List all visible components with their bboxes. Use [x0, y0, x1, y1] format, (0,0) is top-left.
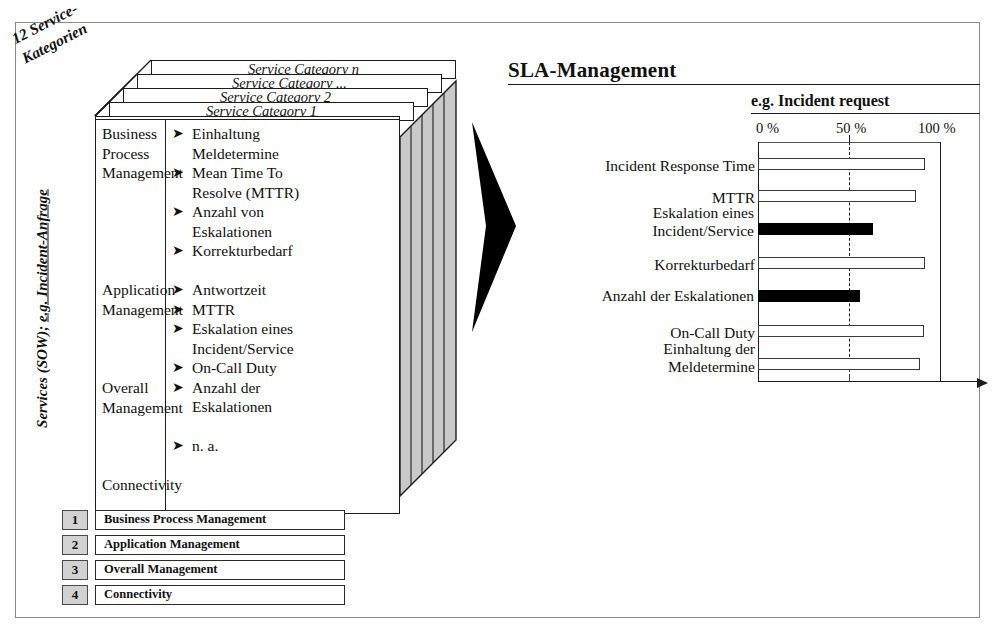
vertical-caption-underlined: e.g. Incident-Anfrage [34, 189, 50, 322]
service-level-item: ➤ Mean Time To Resolve (MTTR) [172, 163, 395, 202]
axis-100-line [940, 142, 941, 382]
bullet-arrow-icon: ➤ [172, 280, 184, 300]
legend-number: 1 [62, 510, 88, 530]
category-label-overall: Overall Management [102, 378, 164, 417]
legend-number: 4 [62, 585, 88, 605]
tick-50-top [849, 135, 850, 144]
bullet-arrow-icon: ➤ [172, 319, 184, 339]
category-label-application: Application Management [102, 280, 164, 319]
bullet-arrow-icon: ➤ [172, 202, 184, 222]
bullet-arrow-icon: ➤ [172, 241, 184, 261]
bar-label: Einhaltung der Meldetermine [663, 340, 755, 375]
category-label-connectivity: Connectivity [102, 475, 164, 495]
xtick-label-0: 0 % [756, 120, 779, 137]
bar-label: On-Call Duty [670, 324, 755, 342]
bar-label: Korrekturbedarf [654, 256, 755, 274]
bullet-arrow-icon: ➤ [172, 124, 184, 144]
service-level-item: ➤ Anzahl der Eskalationen [172, 378, 395, 417]
bar-incident-response-time: Incident Response Time [758, 158, 925, 170]
sla-title-rule [508, 84, 980, 85]
bar-mttr: MTTR [758, 190, 916, 202]
service-level-item: ➤ Antwortzeit [172, 280, 395, 300]
service-level-list: ➤ Einhaltung Meldetermine ➤ Mean Time To… [172, 124, 395, 456]
xtick-label-100: 100 % [918, 120, 955, 137]
list-spacer [172, 417, 395, 437]
bar-eskalation-eines-incident-service: Eskalation eines Incident/Service [758, 223, 873, 235]
legend-label: Business Process Management [95, 510, 345, 530]
flow-arrow-icon [466, 118, 526, 338]
vertical-axis-caption: Services (SOW); e.g. Incident-Anfrage [34, 159, 51, 459]
service-level-item: ➤ Eskalation eines Incident/Service [172, 319, 395, 358]
bullet-arrow-icon: ➤ [172, 300, 184, 320]
bar-anzahl-der-eskalationen: Anzahl der Eskalationen [758, 290, 860, 302]
bar-label: Eskalation eines Incident/Service [652, 204, 754, 239]
category-label-business-process: Business Process Management [102, 124, 164, 183]
bar-on-call-duty: On-Call Duty [758, 325, 924, 337]
bar-korrekturbedarf: Korrekturbedarf [758, 257, 925, 269]
bullet-arrow-icon: ➤ [172, 436, 184, 456]
bar-einhaltung-der-meldetermine: Einhaltung der Meldetermine [758, 358, 920, 370]
service-levels-panel: Business Process Management Application … [95, 119, 400, 514]
sla-management-title: SLA-Management [508, 58, 676, 83]
plot-area: Incident Response Time MTTR Eskalation e… [758, 142, 940, 382]
bar-label: Incident Response Time [605, 157, 755, 175]
service-level-item: ➤ Korrekturbedarf [172, 241, 395, 261]
chart-subtitle: e.g. Incident request [751, 92, 889, 110]
x-axis-arrow-icon [977, 378, 988, 388]
x-axis [758, 381, 978, 382]
service-cube: Service Category n Service Category ... … [55, 40, 475, 520]
chart-subtitle-rule [751, 113, 980, 114]
service-level-item: ➤ Einhaltung Meldetermine [172, 124, 395, 163]
legend-number: 2 [62, 535, 88, 555]
xtick-label-50: 50 % [836, 120, 866, 137]
legend-label: Application Management [95, 535, 345, 555]
bullet-arrow-icon: ➤ [172, 163, 184, 183]
service-level-item: ➤ n. a. [172, 436, 395, 456]
legend-label: Connectivity [95, 585, 345, 605]
service-level-item: ➤ MTTR [172, 300, 395, 320]
vertical-caption-plain: Services (SOW); [34, 322, 50, 428]
service-level-item: ➤ On-Call Duty [172, 358, 395, 378]
bullet-arrow-icon: ➤ [172, 378, 184, 398]
service-level-item: ➤ Anzahl von Eskalationen [172, 202, 395, 241]
bar-label: Anzahl der Eskalationen [602, 287, 754, 305]
sla-bar-chart: 0 % 50 % 100 % Incident Response Time MT… [560, 120, 980, 390]
legend-label: Overall Management [95, 560, 345, 580]
bullet-arrow-icon: ➤ [172, 358, 184, 378]
list-spacer [172, 261, 395, 281]
legend-number: 3 [62, 560, 88, 580]
